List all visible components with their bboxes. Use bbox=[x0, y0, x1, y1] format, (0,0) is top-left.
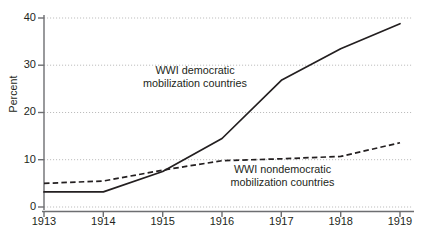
y-tick-0: 0 bbox=[6, 207, 36, 208]
x-tick-1915: 1915 bbox=[143, 216, 183, 227]
chart-container: Percent 40 30 20 10 0 1913 1914 1915 191… bbox=[0, 0, 423, 245]
x-tick-1916: 1916 bbox=[202, 216, 242, 227]
x-tick-1914: 1914 bbox=[83, 216, 123, 227]
y-axis-ticks bbox=[38, 18, 44, 207]
x-tick-1917: 1917 bbox=[261, 216, 301, 227]
chart-plot-area bbox=[0, 0, 423, 245]
series-annotation-democratic-line1: WWI democratic bbox=[120, 64, 270, 77]
x-tick-1918: 1918 bbox=[321, 216, 361, 227]
x-tick-1913: 1913 bbox=[24, 216, 64, 227]
series-annotation-nondemocratic-line1: WWI nondemocratic bbox=[205, 163, 360, 176]
series-annotation-nondemocratic-line2: mobilization countries bbox=[205, 176, 360, 189]
y-tick-10: 10 bbox=[6, 160, 36, 161]
series-annotation-nondemocratic: WWI nondemocratic mobilization countries bbox=[205, 163, 360, 188]
series-annotation-democratic-line2: mobilization countries bbox=[120, 77, 270, 90]
y-tick-20: 20 bbox=[6, 112, 36, 113]
y-tick-30: 30 bbox=[6, 65, 36, 66]
x-tick-1919: 1919 bbox=[380, 216, 420, 227]
y-tick-40: 40 bbox=[6, 18, 36, 19]
series-annotation-democratic: WWI democratic mobilization countries bbox=[120, 64, 270, 89]
